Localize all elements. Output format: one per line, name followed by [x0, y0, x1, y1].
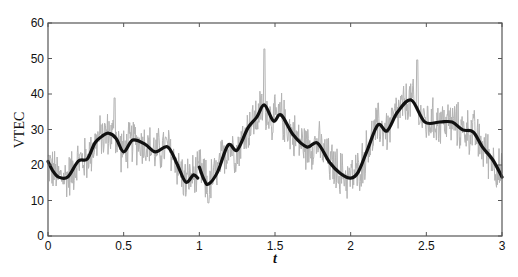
y-tick-label: 50: [31, 52, 45, 66]
x-tick-label: 2: [347, 239, 354, 253]
x-tick-label: 1: [196, 239, 203, 253]
y-tick-label: 0: [37, 229, 44, 243]
x-tick-label: 0: [45, 239, 52, 253]
y-tick-label: 20: [31, 158, 45, 172]
y-tick-label: 10: [31, 194, 45, 208]
y-tick-label: 30: [31, 123, 45, 137]
x-axis-label: t: [273, 251, 278, 266]
x-tick-label: 2.5: [418, 239, 435, 253]
x-tick-label: 0.5: [115, 239, 132, 253]
y-axis-label: VTEC: [12, 112, 27, 149]
y-tick-label: 40: [31, 87, 45, 101]
y-tick-label: 60: [31, 16, 45, 30]
vtec-chart: 00.511.522.53 0102030405060 VTEC t: [0, 0, 518, 277]
x-tick-label: 3: [499, 239, 506, 253]
smoothed-vtec-line-1: [48, 133, 198, 182]
raw-vtec-line: [48, 49, 502, 203]
raw-vtec-series: [48, 49, 502, 203]
